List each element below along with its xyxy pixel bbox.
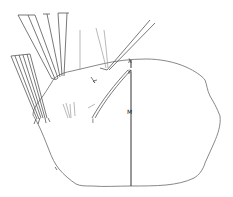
- label-l: l: [92, 117, 94, 124]
- setae-light-group: [63, 28, 108, 118]
- specimen-drawing: λ P M l: [0, 0, 233, 197]
- tubercle-mark: [91, 77, 97, 83]
- outline-notch: [55, 167, 57, 170]
- setae-diagonal: [92, 20, 155, 118]
- label-m: M: [127, 108, 132, 115]
- label-p: P: [128, 68, 132, 75]
- label-top: λ: [128, 57, 132, 64]
- specimen-figure: λ P M l: [0, 0, 233, 197]
- body-outline: [33, 59, 220, 186]
- setae-fan-upper: [18, 13, 69, 80]
